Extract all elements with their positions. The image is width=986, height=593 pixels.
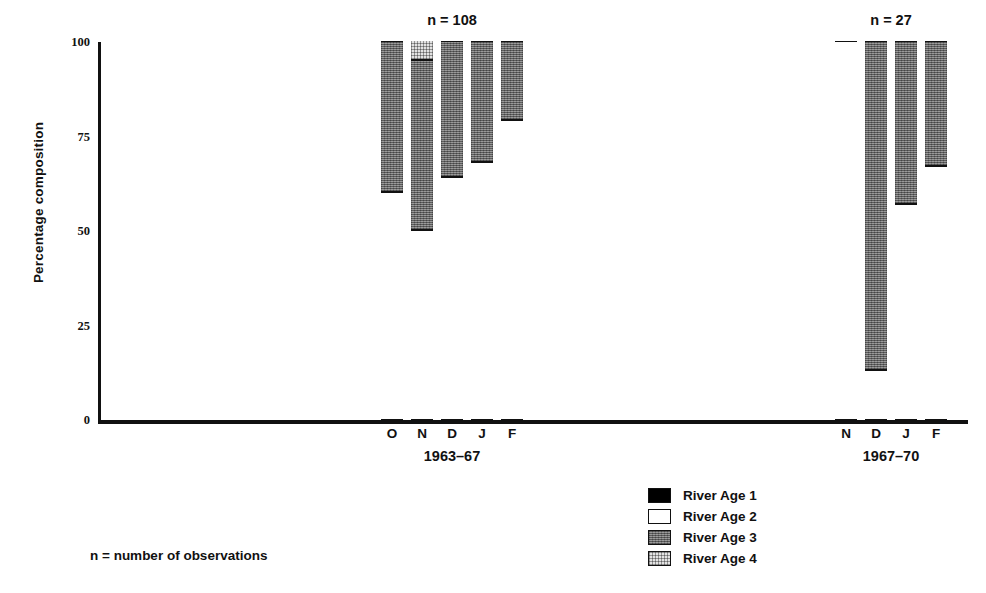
group-sample-size: n = 27 xyxy=(870,12,912,28)
x-tick-label: F xyxy=(508,426,516,441)
stacked-bar xyxy=(925,42,947,420)
x-tick-label: N xyxy=(417,426,427,441)
legend-label: River Age 3 xyxy=(683,530,757,545)
stacked-bar xyxy=(895,42,917,420)
bar-segment-age2 xyxy=(895,204,917,419)
stacked-bar xyxy=(411,42,433,420)
bar-segment-age3 xyxy=(411,60,433,230)
chart-figure: Percentage composition 0255075100 ONDJFn… xyxy=(0,0,986,593)
legend-swatch-icon xyxy=(648,530,671,545)
legend-item: River Age 2 xyxy=(648,507,757,526)
y-axis-line xyxy=(98,42,101,420)
bar-segment-age2 xyxy=(835,41,857,419)
x-tick-label: F xyxy=(932,426,940,441)
stacked-bar xyxy=(471,42,493,420)
y-tick-label: 100 xyxy=(71,35,90,50)
bar-segment-age3 xyxy=(441,41,463,177)
legend-label: River Age 1 xyxy=(683,488,757,503)
stacked-bar xyxy=(835,42,857,420)
y-tick-label: 25 xyxy=(78,318,91,333)
group-period-label: 1967–70 xyxy=(863,448,919,464)
bar-segment-age3 xyxy=(895,41,917,204)
footnote-text: n = number of observations xyxy=(90,548,267,563)
x-tick-label: J xyxy=(478,426,486,441)
x-tick-label: D xyxy=(447,426,457,441)
x-tick-label: J xyxy=(902,426,910,441)
y-tick-label: 50 xyxy=(78,224,91,239)
group-sample-size: n = 108 xyxy=(427,12,477,28)
legend-swatch-icon xyxy=(648,488,671,503)
bar-segment-age2 xyxy=(411,230,433,419)
bar-segment-age2 xyxy=(471,162,493,419)
bar-segment-age3 xyxy=(865,41,887,370)
bar-segment-age4 xyxy=(411,41,433,60)
bar-segment-age3 xyxy=(381,41,403,192)
legend-swatch-icon xyxy=(648,509,671,524)
legend-label: River Age 4 xyxy=(683,551,757,566)
bar-segment-age3 xyxy=(501,41,523,120)
group-period-label: 1963–67 xyxy=(424,448,480,464)
legend-item: River Age 4 xyxy=(648,549,757,568)
bar-segment-age2 xyxy=(441,177,463,419)
stacked-bar xyxy=(865,42,887,420)
x-axis-line xyxy=(98,420,968,424)
x-tick-label: D xyxy=(871,426,881,441)
plot-area: 0255075100 ONDJFn = 1081963–67NDJFn = 27… xyxy=(98,42,968,420)
legend-item: River Age 3 xyxy=(648,528,757,547)
x-tick-label: N xyxy=(841,426,851,441)
bar-segment-age2 xyxy=(925,166,947,419)
y-axis-title: Percentage composition xyxy=(31,83,46,323)
stacked-bar xyxy=(441,42,463,420)
legend-label: River Age 2 xyxy=(683,509,757,524)
y-tick-label: 75 xyxy=(78,129,91,144)
stacked-bar xyxy=(381,42,403,420)
bar-segment-age3 xyxy=(925,41,947,166)
legend-swatch-icon xyxy=(648,551,671,566)
bar-segment-age2 xyxy=(501,120,523,419)
y-tick-label: 0 xyxy=(84,413,90,428)
stacked-bar xyxy=(501,42,523,420)
x-tick-label: O xyxy=(387,426,398,441)
bar-segment-age2 xyxy=(865,370,887,419)
legend-item: River Age 1 xyxy=(648,486,757,505)
bar-segment-age2 xyxy=(381,192,403,419)
bar-segment-age3 xyxy=(471,41,493,162)
legend: River Age 1River Age 2River Age 3River A… xyxy=(648,486,757,570)
